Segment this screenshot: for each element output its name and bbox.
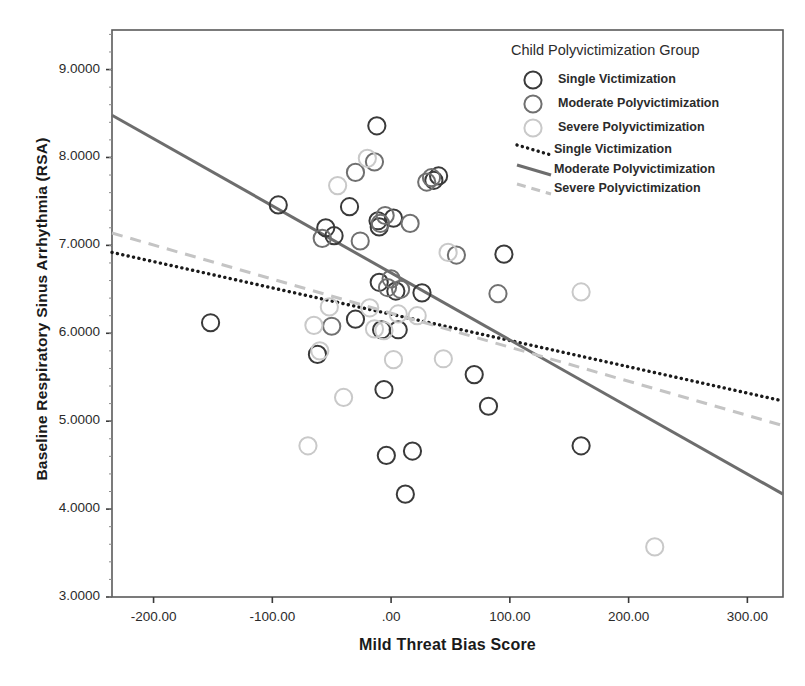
x-tick-label: 100.00 [465, 609, 555, 624]
legend-marker-label: Moderate Polyvictimization [558, 96, 719, 110]
x-tick-label: -100.00 [227, 609, 317, 624]
y-tick-label: 6.0000 [26, 324, 100, 339]
legend-line-label: Moderate Polyvictimization [554, 162, 715, 176]
legend-line-label: Severe Polyvictimization [554, 181, 701, 195]
legend-marker-label: Severe Polyvictimization [558, 120, 705, 134]
y-tick-label: 7.0000 [26, 236, 100, 251]
x-tick-label: 200.00 [584, 609, 674, 624]
y-tick-label: 9.0000 [26, 61, 100, 76]
legend-line-label: Single Victimization [554, 142, 672, 156]
y-tick-label: 4.0000 [26, 500, 100, 515]
legend-glyphs [517, 71, 551, 194]
scatter-plot-figure: Baseline Respiratory Sinus Arrhythmia (R… [0, 0, 805, 686]
x-tick-label: -200.00 [109, 609, 199, 624]
legend-marker-label: Single Victimization [558, 72, 676, 86]
x-tick-label: 300.00 [702, 609, 792, 624]
x-tick-label: .00 [346, 609, 436, 624]
y-tick-label: 3.0000 [26, 588, 100, 603]
y-tick-label: 8.0000 [26, 148, 100, 163]
y-tick-label: 5.0000 [26, 412, 100, 427]
legend-title: Child Polyvictimization Group [511, 42, 700, 58]
